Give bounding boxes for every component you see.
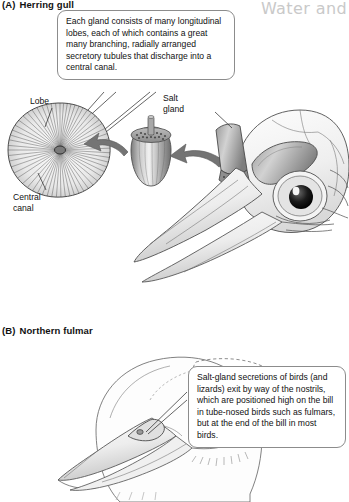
callout-gland-structure: Each gland consists of many longitudinal… bbox=[57, 10, 235, 80]
magnification-arrow-right bbox=[170, 144, 226, 167]
label-salt-gland: Salt gland bbox=[163, 93, 184, 114]
panel-b-label: (B)Northern fulmar bbox=[2, 325, 93, 336]
panel-a-title: Herring gull bbox=[20, 0, 75, 10]
running-head: Water and bbox=[261, 0, 347, 18]
label-lobe: Lobe bbox=[30, 96, 49, 107]
panel-a-tag: (A) bbox=[2, 0, 16, 10]
figure-canvas: Water and (A)Herring gull (B)Northern fu… bbox=[0, 0, 349, 502]
panel-b-tag: (B) bbox=[2, 325, 16, 336]
panel-b-title: Northern fulmar bbox=[20, 325, 93, 336]
callout-salt-gland-secretions: Salt-gland secretions of birds (and liza… bbox=[188, 366, 346, 448]
panel-a-label: (A)Herring gull bbox=[2, 0, 74, 10]
salt-gland-specimen bbox=[131, 116, 171, 187]
label-central-canal: Central canal bbox=[13, 192, 41, 213]
